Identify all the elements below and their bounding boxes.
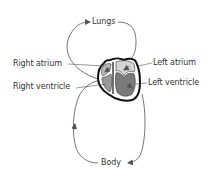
label-body: Body [101,158,121,168]
label-lungs: Lungs [92,17,115,27]
label-left-atrium: Left atrium [153,58,196,68]
label-left-ventricle: Left ventricle [148,78,199,88]
heart [98,59,140,101]
left-ventricle-chamber [115,73,135,96]
label-right-atrium: Right atrium [13,59,62,69]
label-right-ventricle: Right ventricle [13,82,70,92]
